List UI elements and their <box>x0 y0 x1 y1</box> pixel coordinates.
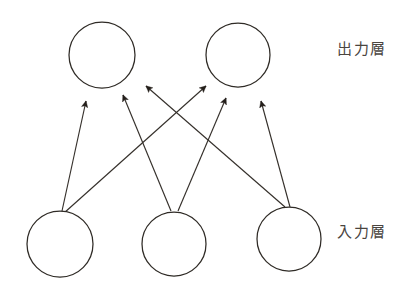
input-node-2 <box>142 212 206 276</box>
input-node-1 <box>27 211 93 277</box>
edge-i3-o2 <box>261 101 290 207</box>
diagram-canvas: 出力層 入力層 <box>0 0 415 290</box>
edge-i3-o1 <box>146 86 285 207</box>
edge-i2-o2 <box>178 98 226 211</box>
input-layer-label: 入力層 <box>337 225 387 240</box>
output-layer-label: 出力層 <box>337 42 387 57</box>
edge-i1-o1 <box>62 101 86 211</box>
input-layer-nodes <box>27 207 321 277</box>
output-layer-nodes <box>69 22 270 88</box>
edge-i2-o1 <box>123 95 171 211</box>
output-node-1 <box>69 22 135 88</box>
output-node-2 <box>206 23 270 87</box>
input-node-3 <box>257 207 321 271</box>
edge-group <box>62 86 290 213</box>
